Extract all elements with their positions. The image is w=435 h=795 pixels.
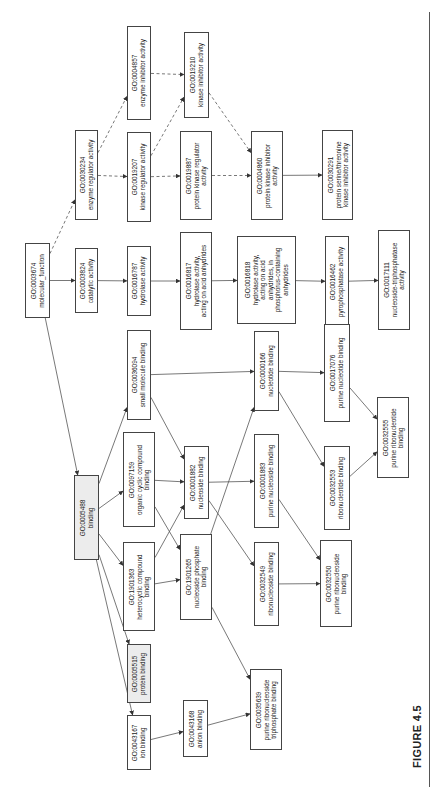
go-term-name-line: purine ribonucleoside xyxy=(262,679,270,740)
go-term-name-line: molecular_function xyxy=(38,254,46,308)
go-term-name-line: ribonucleotide binding xyxy=(337,457,345,519)
go-term-name-line: catalytic activity xyxy=(87,258,95,302)
regulates-edge xyxy=(151,176,180,177)
go-term-node: GO:0032555purine ribonucleotidebinding xyxy=(377,397,409,478)
go-term-node: GO:0019887protein kinase regulatoractivi… xyxy=(180,131,212,220)
is-a-edge xyxy=(209,501,254,566)
go-term-node: GO:0016787hydrolase activity xyxy=(127,246,151,316)
go-term-name-line: binding xyxy=(200,546,208,608)
go-term-id: GO:0017111 xyxy=(383,243,391,318)
go-term-node: GO:0016817hydrolase activity,acting on a… xyxy=(180,232,212,330)
go-term-node: GO:0019210kinase inhibitor activity xyxy=(184,32,209,118)
go-term-id: GO:0030291 xyxy=(326,141,334,208)
go-term-node: GO:0036094small molecule binding xyxy=(127,330,151,420)
go-term-name-line: activity xyxy=(200,142,208,209)
edge-layer xyxy=(0,0,435,795)
go-term-label: GO:0016817hydrolase activity,acting on a… xyxy=(185,245,208,317)
go-term-id: GO:0016818 xyxy=(244,248,252,313)
go-term-name-line: hydrolase activity, xyxy=(192,245,200,317)
go-term-node: GO:0032553ribonucleotide binding xyxy=(324,446,350,530)
is-a-edge xyxy=(151,732,183,740)
go-term-name-line: purine nucleotide binding xyxy=(337,337,345,408)
go-term-name-line: protein binding xyxy=(139,653,147,695)
go-term-label: GO:0019887protein kinase regulatoractivi… xyxy=(185,142,208,209)
regulates-edge xyxy=(151,73,184,74)
go-term-name-line: activity xyxy=(271,144,279,208)
go-term-node: GO:0004860protein kinase inhibitoractivi… xyxy=(251,131,283,220)
go-term-label: GO:0004860protein kinase inhibitoractivi… xyxy=(256,144,279,208)
is-a-edge xyxy=(209,481,254,482)
go-term-node: GO:0005488binding xyxy=(74,475,99,560)
go-term-name-line: binding xyxy=(143,445,151,515)
go-term-id: GO:0001882 xyxy=(189,456,197,509)
go-term-id: GO:0000166 xyxy=(259,345,267,397)
go-term-name-line: purine ribonucleotide xyxy=(389,408,397,467)
go-term-node: GO:0032549ribonucleoside binding xyxy=(254,542,279,626)
go-term-name-line: anhydrides xyxy=(282,248,290,313)
go-term-node: GO:1901363heterocyclic compoundbinding xyxy=(123,542,155,631)
go-term-name-line: organic cyclic compound xyxy=(135,445,143,515)
go-term-label: GO:0003824catalytic activity xyxy=(79,258,94,302)
go-term-label: GO:0001883purine nucleoside binding xyxy=(259,445,274,517)
go-term-name-line: acting on acid xyxy=(259,248,267,313)
go-term-name-line: small molecule binding xyxy=(139,343,147,408)
is-a-edge xyxy=(349,280,378,281)
is-a-edge xyxy=(279,371,324,372)
go-term-id: GO:0019887 xyxy=(185,142,193,209)
is-a-edge xyxy=(155,580,180,584)
go-term-label: GO:0030291protein serine/threoninekinase… xyxy=(326,141,349,208)
go-term-label: GO:0030234enzyme regulator activity xyxy=(79,140,94,211)
go-term-id: GO:0004860 xyxy=(256,144,264,208)
go-term-id: GO:1901265 xyxy=(185,546,193,608)
go-term-name-line: nucleoside phosphate xyxy=(192,546,200,608)
go-term-node: GO:0017076purine nucleotide binding xyxy=(324,324,350,422)
go-term-name-line: phosphorus-containing xyxy=(274,248,282,313)
go-term-node: GO:0030291protein serine/threoninekinase… xyxy=(322,130,353,220)
go-term-id: GO:0019207 xyxy=(131,144,139,211)
go-term-node: GO:0043167ion binding xyxy=(127,715,151,770)
go-term-name-line: triphosphate binding xyxy=(270,679,278,740)
go-term-label: GO:0016818hydrolase activity,acting on a… xyxy=(244,248,290,313)
go-term-node: GO:0017111nucleoside-triphosphataseactiv… xyxy=(378,230,410,330)
go-term-label: GO:0017076purine nucleotide binding xyxy=(329,337,344,408)
go-term-label: GO:0032549ribonucleoside binding xyxy=(259,552,274,616)
go-term-name-line: hydrolase activity, xyxy=(251,248,259,313)
is-a-edge xyxy=(155,480,184,482)
go-term-label: GO:0016462pyrophosphatase activity xyxy=(329,246,344,316)
regulates-edge xyxy=(50,200,75,254)
go-term-id: GO:0032550 xyxy=(325,553,333,614)
go-term-name-line: ribonucleoside binding xyxy=(267,552,275,616)
go-term-name-line: nucleotide binding xyxy=(267,345,275,397)
go-term-name-line: nucleoside binding xyxy=(197,456,205,509)
go-term-label: GO:0032550purine ribonucleosidebinding xyxy=(325,553,348,614)
go-term-label: GO:0036094small molecule binding xyxy=(131,343,146,408)
go-term-name-line: binding xyxy=(397,408,405,467)
regulates-edge xyxy=(98,175,127,176)
go-term-id: GO:0032555 xyxy=(382,408,390,467)
go-term-name-line: protein serine/threonine xyxy=(334,141,342,208)
go-term-node: GO:0030234enzyme regulator activity xyxy=(75,130,98,220)
go-term-node: GO:0035639purine ribonucleosidetriphosph… xyxy=(250,669,282,750)
is-a-edge xyxy=(279,499,320,559)
go-term-label: GO:0019210kinase inhibitor activity xyxy=(189,43,204,107)
go-term-node: GO:0005515protein binding xyxy=(127,644,151,703)
go-term-id: GO:0004857 xyxy=(131,39,139,107)
go-term-node: GO:0032550purine ribonucleosidebinding xyxy=(320,540,352,627)
go-term-label: GO:0043168anion binding xyxy=(188,709,203,747)
is-a-edge xyxy=(151,397,184,459)
go-term-label: GO:0035639purine ribonucleosidetriphosph… xyxy=(255,679,278,740)
is-a-edge xyxy=(211,408,254,534)
go-term-name-line: anhydrides, in xyxy=(267,248,275,313)
go-term-id: GO:0043167 xyxy=(131,724,139,761)
go-term-label: GO:0017111nucleoside-triphosphataseactiv… xyxy=(383,243,406,318)
go-term-id: GO:1901363 xyxy=(128,554,136,619)
go-term-node: GO:0097159organic cyclic compoundbinding xyxy=(123,432,155,527)
go-term-id: GO:0043168 xyxy=(188,709,196,747)
go-term-id: GO:0030234 xyxy=(79,140,87,211)
is-a-edge xyxy=(99,534,123,566)
go-term-label: GO:0032553ribonucleotide binding xyxy=(329,457,344,519)
go-term-name-line: kinase inhibitor activity xyxy=(197,43,205,107)
go-term-name-line: anion binding xyxy=(196,709,204,747)
go-term-label: GO:0019207kinase regulator activity xyxy=(131,144,146,211)
go-term-label: GO:0003674molecular_function xyxy=(30,254,45,308)
